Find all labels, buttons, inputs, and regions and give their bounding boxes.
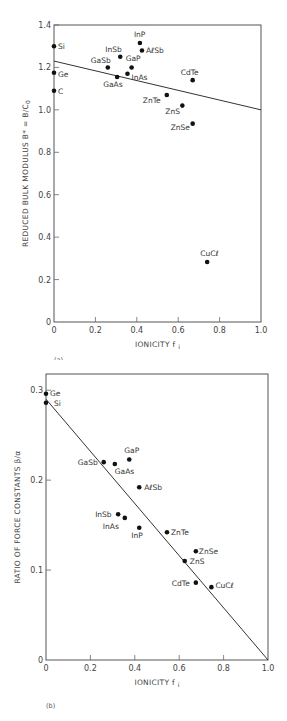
x-tick-label: 0.4 [130,326,143,335]
data-point [205,260,210,265]
point-label: CuCℓ [215,581,233,590]
point-label: CdTe [181,68,199,77]
panel-label: (b) [46,702,55,710]
point-label: ZnS [190,557,205,566]
data-point [137,525,142,530]
data-point [101,460,106,465]
x-tick-label: 0.2 [89,326,102,335]
data-point [113,462,118,467]
point-label: ZnSe [171,123,191,132]
data-point [52,88,57,93]
point-label: InAs [131,73,147,82]
point-label: AℓSb [144,483,162,492]
y-tick-label: 0.6 [38,191,51,200]
y-tick-label: 1.0 [38,106,51,115]
data-point [140,48,145,53]
x-tick-label: 0.4 [128,664,141,673]
point-label: InAs [103,522,119,531]
data-point [194,580,199,585]
data-point [125,71,130,76]
y-tick-label: 1.4 [38,21,51,30]
point-label: Ge [50,389,61,398]
fit-line [46,399,268,660]
plot-frame [46,374,268,660]
y-tick-label: 0.2 [38,276,51,285]
point-label: InSb [95,510,112,519]
y-axis-label: RATIO OF FORCE CONSTANTS β/α [13,450,22,583]
data-point [116,512,121,517]
data-point [52,44,57,49]
data-point [182,559,187,564]
x-tick-label: 0 [43,664,48,673]
data-point [190,121,195,126]
data-point [44,391,49,396]
data-point [115,75,120,80]
data-point [190,78,195,83]
data-point [106,65,111,70]
x-tick-label: 0.6 [172,326,185,335]
y-tick-label: 0.4 [38,233,51,242]
data-point [137,485,142,490]
y-axis-label: REDUCED BULK MODULUS B* = B/C0 [21,100,31,247]
data-point [123,516,128,521]
y-tick-label: 0.2 [30,476,43,485]
x-tick-label: 0.8 [217,664,230,673]
data-point [138,41,143,46]
x-tick-label: 1.0 [255,326,268,335]
chart-b-force-constants: 00.20.40.60.81.000.10.20.3GeSiGaSbGaAsGa… [0,360,287,721]
x-axis-label: IONICITY f i [134,678,179,688]
x-tick-label: 0.8 [213,326,226,335]
point-label: C [58,87,63,96]
data-point [209,585,214,590]
plot-frame [54,25,261,322]
y-tick-label: 0 [38,656,43,665]
point-label: Si [54,399,61,408]
point-label: ZnTe [171,528,189,537]
point-label: Si [58,42,65,51]
x-tick-label: 0.2 [84,664,97,673]
point-label: CdTe [172,579,190,588]
data-point [129,65,134,70]
x-tick-label: 0.6 [173,664,186,673]
point-label: GaSb [78,458,98,467]
point-label: Ge [58,70,69,79]
point-label: InP [134,30,146,39]
data-point [127,457,132,462]
data-point [52,70,57,75]
point-label: GaSb [91,56,111,65]
point-label: GaP [126,54,141,63]
point-label: InP [131,531,143,540]
point-label: AℓSb [146,46,164,55]
data-point [180,103,185,108]
data-point [165,530,170,535]
point-label: GaP [124,446,139,455]
y-tick-label: 0.8 [38,148,51,157]
point-label: ZnS [165,107,180,116]
y-tick-label: 1.2 [38,63,51,72]
x-tick-label: 1.0 [262,664,275,673]
x-tick-label: 0 [51,326,56,335]
data-point [44,400,49,405]
point-label: InSb [105,45,122,54]
point-label: GaAs [115,467,135,476]
x-axis-label: IONICITY f i [135,340,180,350]
point-label: GaAs [103,80,123,89]
point-label: ZnSe [199,547,219,556]
data-point [165,93,170,98]
point-label: ZnTe [143,96,161,105]
chart-a-bulk-modulus: 00.20.40.60.81.000.20.40.60.81.01.21.4Si… [0,0,287,360]
point-label: CuCℓ [200,249,218,258]
data-point [118,55,123,60]
y-tick-label: 0.3 [30,386,43,395]
y-tick-label: 0 [46,318,51,327]
y-tick-label: 0.1 [30,566,43,575]
data-point [194,549,199,554]
